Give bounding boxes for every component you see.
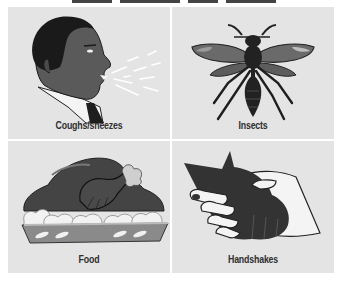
- panel-label: Food: [18, 254, 161, 265]
- heading-glyph-fragment: [120, 0, 180, 3]
- panel-insects: Insects: [172, 7, 334, 139]
- panel-label: Handshakes: [182, 254, 325, 265]
- panel-label: Insects: [182, 120, 325, 131]
- heading-glyph-fragment: [226, 0, 276, 3]
- heading-glyph-fragment: [188, 0, 218, 3]
- heading-glyph-fragment: [72, 0, 112, 3]
- panel-handshakes: Handshakes: [172, 141, 334, 273]
- panel-food: Food: [8, 141, 170, 273]
- panel-coughs-sneezes: Coughs/sneezes: [8, 7, 170, 139]
- clipped-heading: [70, 0, 280, 4]
- panel-label: Coughs/sneezes: [18, 120, 161, 131]
